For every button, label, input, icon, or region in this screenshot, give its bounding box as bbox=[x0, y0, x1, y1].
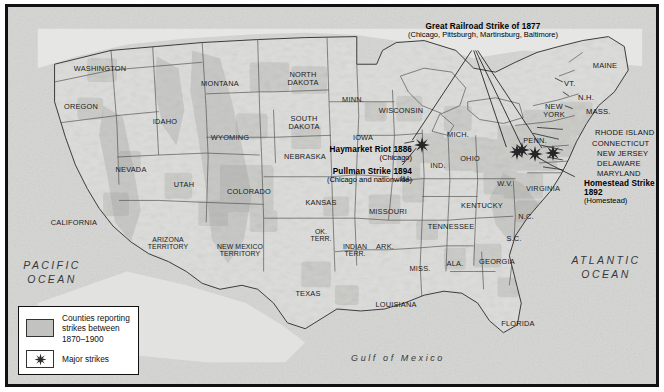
legend-line-1: Major strikes bbox=[62, 354, 109, 364]
historical-strike-map: PACIFIC OCEAN ATLANTIC OCEAN Gulf of Mex… bbox=[0, 0, 664, 392]
map-frame: PACIFIC OCEAN ATLANTIC OCEAN Gulf of Mex… bbox=[5, 4, 659, 387]
legend-line-3: 1870–1900 bbox=[62, 334, 130, 344]
star-icon bbox=[514, 142, 531, 159]
legend-line-2: strikes between bbox=[62, 323, 130, 333]
star-icon bbox=[414, 137, 431, 154]
legend-row-counties: Counties reporting strikes between 1870–… bbox=[26, 313, 130, 344]
shaded-county-swatch-icon bbox=[26, 319, 54, 337]
legend-counties-text: Counties reporting strikes between 1870–… bbox=[62, 313, 130, 344]
star-marker-icon bbox=[26, 350, 54, 368]
legend-row-major-strikes: Major strikes bbox=[26, 350, 130, 368]
map-legend: Counties reporting strikes between 1870–… bbox=[18, 306, 139, 375]
major-strike-marker-baltimore bbox=[545, 145, 562, 166]
major-strike-marker-chicago bbox=[414, 137, 431, 158]
legend-line-1: Counties reporting bbox=[62, 313, 130, 323]
legend-major-strikes-text: Major strikes bbox=[62, 354, 109, 364]
major-strike-marker-homestead bbox=[514, 142, 531, 163]
star-glyph bbox=[34, 353, 47, 366]
star-icon bbox=[545, 145, 562, 162]
